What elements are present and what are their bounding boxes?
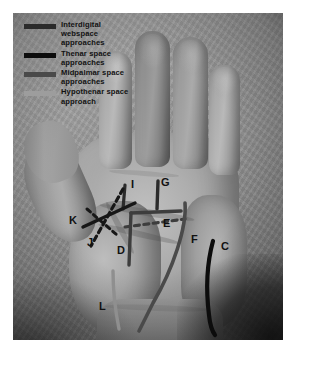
legend-label-midpalmar: Midpalmar space approaches [61,68,124,86]
legend-item-interdigital: Interdigital webspace approaches [24,20,142,48]
legend-item-thenar: Thenar space approaches [24,49,142,67]
legend-label-interdigital: Interdigital webspace approaches [61,20,105,48]
figure-root: I G K J D E F C L Interdigital webspace … [0,0,315,382]
legend-item-hypothenar: Hypothenar space approach [24,87,142,105]
marker-label-L: L [99,301,106,312]
legend-swatch-interdigital [24,24,56,29]
marker-label-K: K [69,215,77,226]
marker-label-G: G [161,177,170,188]
legend-swatch-hypothenar [24,91,56,96]
marker-label-F: F [191,234,198,245]
legend-item-midpalmar: Midpalmar space approaches [24,68,142,86]
legend-swatch-midpalmar [24,72,56,77]
legend: Interdigital webspace approaches Thenar … [24,20,142,107]
marker-label-C: C [221,241,229,252]
legend-label-hypothenar: Hypothenar space approach [61,87,128,105]
marker-label-I: I [131,179,134,190]
marker-label-J: J [87,237,93,248]
marker-label-D: D [117,245,125,256]
legend-label-thenar: Thenar space approaches [61,49,111,67]
marker-label-E: E [163,218,170,229]
legend-swatch-thenar [24,53,56,58]
